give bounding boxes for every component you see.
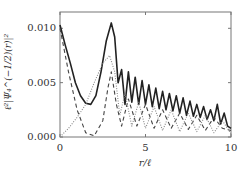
x-tick-label: 10 (225, 142, 238, 153)
y-tick-label: 0.000 (27, 131, 56, 142)
axis-ticks (60, 12, 231, 137)
series-total (60, 23, 231, 128)
y-tick-label: 0.005 (27, 77, 56, 88)
x-tick-label: 5 (142, 142, 148, 153)
y-tick-label: 0.010 (27, 22, 56, 33)
x-axis-label: r/ℓ (139, 157, 151, 168)
chart: 0.010 0.005 0.000 0 5 10 r/ℓ ℓ²|Ψ₄^(−1/2… (0, 0, 249, 173)
series-component-dotted (60, 56, 231, 138)
x-tick-label: 0 (57, 142, 63, 153)
plot-frame (60, 12, 231, 137)
y-axis-label: ℓ²|Ψ₄^(−1/2)(r)|² (3, 33, 14, 110)
series-component-dashed (60, 28, 231, 136)
data-series (60, 23, 231, 137)
